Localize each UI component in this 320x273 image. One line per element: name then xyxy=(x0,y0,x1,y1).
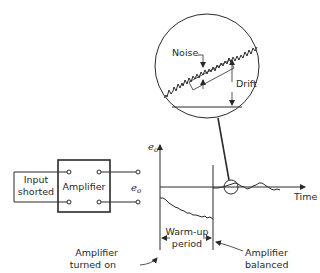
magnifier-inset: Noise Drift xyxy=(155,14,259,118)
output-terminal-inner-top xyxy=(97,170,101,174)
drift-label: Drift xyxy=(236,78,257,89)
magnifier-leader-line xyxy=(218,118,229,180)
amplifier-label: Amplifier xyxy=(63,181,106,192)
output-terminal-inner-bottom xyxy=(97,200,101,204)
balanced-pointer xyxy=(216,242,243,251)
balanced-label-line2: balanced xyxy=(245,259,288,270)
output-terminal-bottom xyxy=(136,200,140,204)
turned-on-pointer xyxy=(140,258,157,265)
amplifier-drift-diagram: Noise Drift Amplifier Input shorted eo e… xyxy=(0,0,320,273)
noise-label: Noise xyxy=(172,47,199,58)
input-terminal-top xyxy=(67,170,71,174)
turned-on-label-line2: turned on xyxy=(70,259,116,270)
x-axis-label: Time xyxy=(293,191,317,202)
input-shorted-label-line1: Input xyxy=(24,174,49,185)
output-terminal-top xyxy=(136,170,140,174)
balanced-label-line1: Amplifier xyxy=(245,247,288,258)
circuit-diagram: Amplifier Input shorted eo xyxy=(14,160,141,212)
y-axis-label: eo xyxy=(148,141,158,154)
input-shorted-label-line2: shorted xyxy=(18,186,54,197)
warmup-label-line2: period xyxy=(172,238,202,249)
noise-band-upper xyxy=(189,60,230,82)
output-voltage-label: eo xyxy=(131,182,141,195)
turned-on-label-line1: Amplifier xyxy=(75,247,118,258)
warmup-label-line1: Warm-up xyxy=(165,226,208,237)
noise-arrow-top xyxy=(198,55,203,67)
input-terminal-bottom xyxy=(67,200,71,204)
magnifier-circle xyxy=(155,14,259,118)
warmup-curve xyxy=(160,198,213,219)
